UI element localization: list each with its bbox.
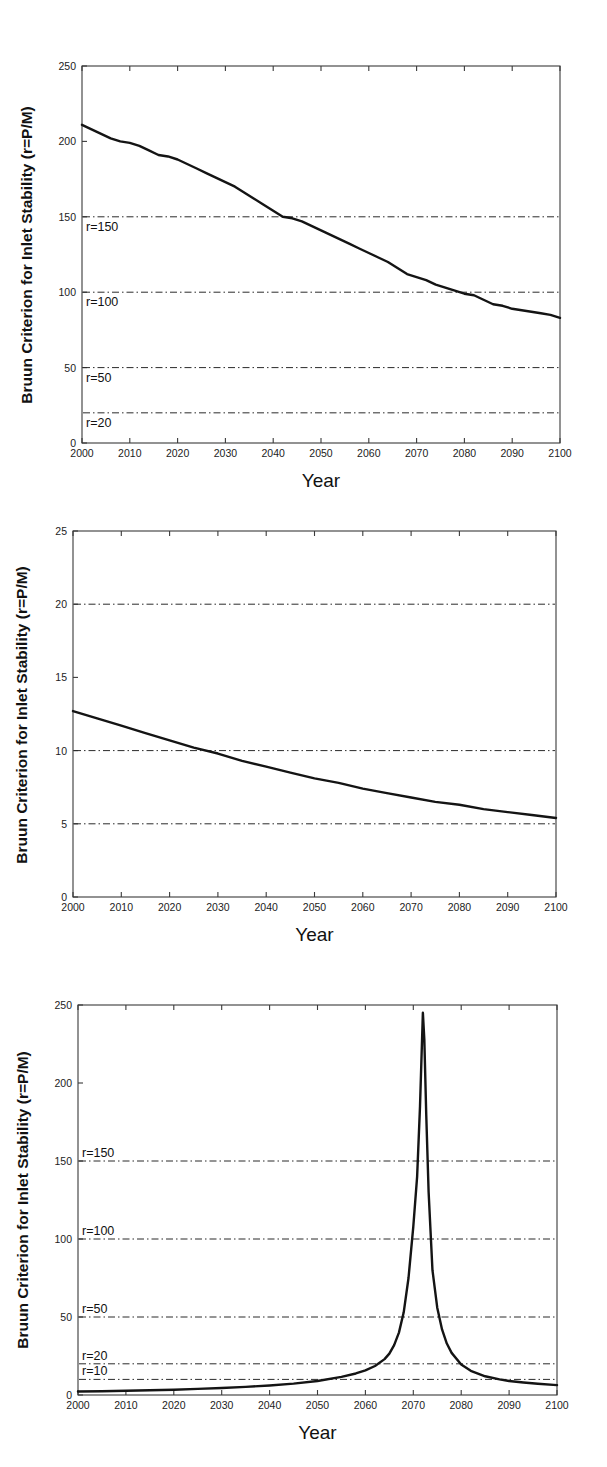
x-tick-label: 2020 bbox=[166, 447, 190, 459]
reference-line-label: r=100 bbox=[82, 1224, 114, 1238]
x-tick-label: 2050 bbox=[309, 447, 333, 459]
y-tick-label: 150 bbox=[58, 211, 76, 223]
y-tick-label: 5 bbox=[61, 818, 67, 830]
chart-panel-c: 2000201020202030204020502060207020802090… bbox=[0, 960, 607, 1467]
x-tick-label: 2100 bbox=[544, 901, 568, 913]
x-tick-label: 2050 bbox=[303, 901, 327, 913]
x-tick-label: 2010 bbox=[114, 1399, 138, 1411]
y-tick-label: 250 bbox=[54, 999, 72, 1011]
x-tick-label: 2030 bbox=[214, 447, 238, 459]
y-tick-label: 200 bbox=[58, 135, 76, 147]
reference-line-label: r=50 bbox=[82, 1302, 107, 1316]
y-tick-label: 0 bbox=[61, 891, 67, 903]
y-tick-label: 25 bbox=[55, 525, 67, 537]
x-tick-label: 2070 bbox=[399, 901, 423, 913]
y-tick-label: 250 bbox=[58, 60, 76, 72]
x-tick-label: 2060 bbox=[357, 447, 381, 459]
y-tick-label: 0 bbox=[66, 1389, 72, 1401]
y-axis-title: Bruun Criterion for Inlet Stability (r=P… bbox=[13, 566, 30, 864]
reference-line-label: r=150 bbox=[86, 220, 118, 234]
x-tick-label: 2010 bbox=[110, 901, 134, 913]
y-axis-title: Bruun Criterion for Inlet Stability (r=P… bbox=[18, 106, 35, 404]
x-tick-label: 2010 bbox=[118, 447, 142, 459]
x-tick-label: 2080 bbox=[453, 447, 477, 459]
x-tick-label: 2030 bbox=[210, 1399, 234, 1411]
y-tick-label: 100 bbox=[58, 286, 76, 298]
x-tick-label: 2030 bbox=[206, 901, 230, 913]
x-tick-label: 2090 bbox=[501, 447, 525, 459]
figure-panel-a: 2000201020202030204020502060207020802090… bbox=[0, 0, 607, 500]
x-tick-label: 2070 bbox=[405, 447, 429, 459]
reference-line-label: r=10 bbox=[82, 1364, 107, 1378]
reference-line-label: r=20 bbox=[86, 416, 111, 430]
x-tick-label: 2100 bbox=[548, 447, 572, 459]
figure-panel-c: 2000201020202030204020502060207020802090… bbox=[0, 960, 607, 1467]
y-tick-label: 150 bbox=[54, 1155, 72, 1167]
x-axis-title: Year bbox=[298, 1422, 337, 1443]
y-tick-label: 10 bbox=[55, 745, 67, 757]
x-tick-label: 2060 bbox=[351, 901, 375, 913]
x-axis-title: Year bbox=[302, 470, 341, 491]
x-tick-label: 2080 bbox=[448, 901, 472, 913]
y-tick-label: 20 bbox=[55, 598, 67, 610]
figure-panel-b: 2000201020202030204020502060207020802090… bbox=[0, 500, 607, 960]
y-tick-label: 0 bbox=[70, 437, 76, 449]
y-tick-label: 200 bbox=[54, 1077, 72, 1089]
x-tick-label: 2090 bbox=[496, 901, 520, 913]
reference-line-label: r=100 bbox=[86, 295, 118, 309]
reference-line-label: r=150 bbox=[82, 1146, 114, 1160]
x-tick-label: 2050 bbox=[306, 1399, 330, 1411]
x-tick-label: 2040 bbox=[255, 901, 279, 913]
y-tick-label: 50 bbox=[60, 1311, 72, 1323]
x-tick-label: 2090 bbox=[497, 1399, 521, 1411]
x-tick-label: 2020 bbox=[158, 901, 182, 913]
x-axis-title: Year bbox=[295, 924, 334, 945]
reference-line-label: r=50 bbox=[86, 371, 111, 385]
data-series-line bbox=[78, 1013, 557, 1392]
y-tick-label: 50 bbox=[64, 362, 76, 374]
x-tick-label: 2080 bbox=[450, 1399, 474, 1411]
x-tick-label: 2070 bbox=[402, 1399, 426, 1411]
data-series-line bbox=[73, 711, 556, 818]
data-series-line bbox=[82, 125, 560, 318]
x-tick-label: 2100 bbox=[545, 1399, 569, 1411]
reference-line-label: r=20 bbox=[82, 1349, 107, 1363]
y-tick-label: 15 bbox=[55, 671, 67, 683]
x-tick-label: 2020 bbox=[162, 1399, 186, 1411]
x-tick-label: 2060 bbox=[354, 1399, 378, 1411]
chart-panel-a: 2000201020202030204020502060207020802090… bbox=[0, 0, 607, 500]
chart-panel-b: 2000201020202030204020502060207020802090… bbox=[0, 500, 607, 960]
x-tick-label: 2040 bbox=[262, 447, 286, 459]
y-axis-title: Bruun Criterion for Inlet Stability (r=P… bbox=[14, 1051, 31, 1349]
x-tick-label: 2040 bbox=[258, 1399, 282, 1411]
y-tick-label: 100 bbox=[54, 1233, 72, 1245]
